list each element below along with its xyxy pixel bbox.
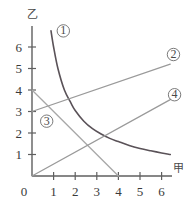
- series-label-text: 2: [170, 47, 176, 61]
- y-tick-label: 5: [16, 61, 23, 76]
- series-line-②: [32, 64, 170, 111]
- series-line-③: [32, 90, 118, 176]
- series-labels: 1234: [40, 23, 180, 127]
- series-label-③: 3: [40, 114, 52, 128]
- series-label-text: 3: [44, 114, 50, 128]
- x-axis-tick-labels: 123456: [50, 184, 165, 199]
- series-label-text: 4: [172, 87, 178, 101]
- chart-plot-area: 1234 123456 123456 0 甲 乙: [0, 0, 190, 214]
- x-tick-label: 5: [137, 184, 144, 199]
- y-axis-tick-labels: 123456: [16, 40, 23, 163]
- origin-label: 0: [21, 184, 28, 199]
- y-tick-label: 1: [16, 147, 23, 162]
- x-tick-label: 2: [72, 184, 79, 199]
- series-label-①: 1: [57, 23, 69, 37]
- chart-container: 1234 123456 123456 0 甲 乙: [0, 0, 190, 214]
- x-tick-label: 1: [50, 184, 57, 199]
- y-tick-label: 3: [16, 104, 23, 119]
- y-tick-label: 2: [16, 126, 23, 141]
- series-line-①: [51, 31, 170, 155]
- series-label-②: 2: [167, 47, 179, 61]
- series-paths: [32, 31, 170, 176]
- series-label-text: 1: [60, 23, 66, 37]
- x-tick-label: 3: [94, 184, 101, 199]
- x-axis-title: 甲: [173, 162, 184, 174]
- x-tick-label: 6: [158, 184, 165, 199]
- y-tick-label: 6: [16, 40, 23, 55]
- y-axis-title: 乙: [27, 8, 38, 20]
- series-label-④: 4: [168, 87, 180, 101]
- y-tick-label: 4: [16, 83, 23, 98]
- x-tick-label: 4: [115, 184, 122, 199]
